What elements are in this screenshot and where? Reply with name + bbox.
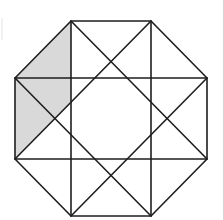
diagram-canvas — [0, 0, 223, 220]
octagon-figure — [0, 0, 223, 220]
